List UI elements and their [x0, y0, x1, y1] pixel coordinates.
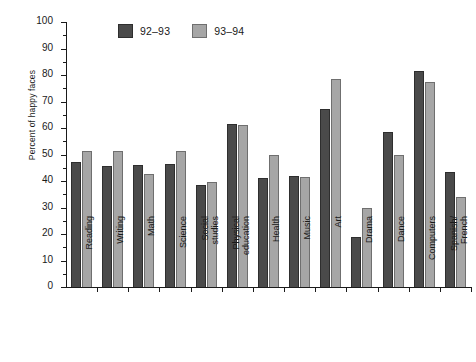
y-axis-tick-minor [63, 168, 66, 169]
bar [320, 109, 330, 287]
y-axis-tick-minor [63, 62, 66, 63]
x-axis-tick [253, 287, 254, 292]
y-axis-tick-label: 100 [13, 15, 53, 26]
y-axis-tick-major: 20 [61, 234, 66, 235]
y-axis-title: Percent of happy faces [27, 35, 37, 195]
x-axis-label-line: Art [334, 216, 344, 296]
x-axis-tick [222, 287, 223, 292]
y-axis-tick-label: 70 [13, 95, 53, 106]
y-axis-tick-label: 50 [13, 148, 53, 159]
y-axis-tick-minor [63, 141, 66, 142]
bar [102, 166, 112, 287]
x-axis-tick [191, 287, 192, 292]
y-axis-tick-label: 60 [13, 121, 53, 132]
x-axis-tick [284, 287, 285, 292]
x-axis-label-line: Computers [428, 216, 438, 296]
y-axis-tick-label: 20 [13, 227, 53, 238]
y-axis-tick-label: 80 [13, 68, 53, 79]
y-axis-tick-minor [63, 274, 66, 275]
x-axis-label-line: Music [303, 216, 313, 296]
bar [258, 178, 268, 287]
y-axis-tick-minor [63, 35, 66, 36]
x-axis-label-line: French [460, 216, 470, 296]
bar [414, 71, 424, 287]
x-axis-label-line: Writing [116, 216, 126, 296]
plot-area: 0102030405060708090100ReadingWritingMath… [66, 22, 471, 287]
x-axis-label: Health [272, 216, 282, 296]
y-axis-tick-major: 30 [61, 208, 66, 209]
bar-chart: Percent of happy faces 92–93 93–94 01020… [0, 0, 476, 362]
x-axis-label: Art [334, 216, 344, 296]
y-axis-tick-minor [63, 115, 66, 116]
y-axis-tick-major: 50 [61, 155, 66, 156]
y-axis-tick-label: 30 [13, 201, 53, 212]
x-axis-label: Computers [428, 216, 438, 296]
x-axis-tick [159, 287, 160, 292]
y-axis-tick-minor [63, 247, 66, 248]
bar [133, 165, 143, 287]
x-axis-tick [378, 287, 379, 292]
x-axis-label: Reading [85, 216, 95, 296]
bar [383, 132, 393, 287]
x-axis-label: Drama [365, 216, 375, 296]
y-axis-tick-label: 90 [13, 42, 53, 53]
y-axis-tick-minor [63, 221, 66, 222]
x-axis-tick [440, 287, 441, 292]
x-axis-tick [409, 287, 410, 292]
y-axis-tick-major: 70 [61, 102, 66, 103]
x-axis-label-line: Math [147, 216, 157, 296]
bar [71, 162, 81, 287]
x-axis-label-line: Reading [85, 216, 95, 296]
x-axis-label-line: Dance [397, 216, 407, 296]
x-axis-label: Science [179, 216, 189, 296]
x-axis-label: Socialstudies [201, 216, 220, 296]
y-axis-tick-minor [63, 194, 66, 195]
y-axis-tick-major: 90 [61, 49, 66, 50]
x-axis-label-line: Health [272, 216, 282, 296]
x-axis-tick [471, 287, 472, 292]
bar [289, 176, 299, 287]
y-axis-tick-major: 100 [61, 22, 66, 23]
x-axis-label: Music [303, 216, 313, 296]
x-axis-label-line: studies [211, 216, 221, 296]
x-axis-label-line: Science [179, 216, 189, 296]
x-axis-line [66, 287, 471, 288]
x-axis-tick [346, 287, 347, 292]
y-axis-tick-label: 10 [13, 254, 53, 265]
y-axis-tick-minor [63, 88, 66, 89]
y-axis-tick-label: 0 [13, 280, 53, 291]
y-axis-tick-major: 10 [61, 261, 66, 262]
x-axis-label-line: Drama [365, 216, 375, 296]
x-axis-label: Writing [116, 216, 126, 296]
x-axis-label: Spanish/French [450, 216, 469, 296]
x-axis-tick [315, 287, 316, 292]
x-axis-label: Physicaleducation [232, 216, 251, 296]
y-axis-tick-major: 60 [61, 128, 66, 129]
bar [351, 237, 361, 287]
y-axis-tick-major: 40 [61, 181, 66, 182]
x-axis-label: Math [147, 216, 157, 296]
y-axis-line [66, 22, 67, 288]
x-axis-tick [128, 287, 129, 292]
y-axis-tick-major: 0 [61, 287, 66, 288]
y-axis-tick-label: 40 [13, 174, 53, 185]
y-axis-tick-major: 80 [61, 75, 66, 76]
bar [165, 164, 175, 287]
x-axis-label: Dance [397, 216, 407, 296]
x-axis-tick [97, 287, 98, 292]
x-axis-label-line: education [242, 216, 252, 296]
